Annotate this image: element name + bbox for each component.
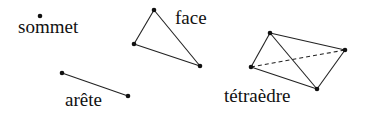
face-label: face	[175, 7, 207, 28]
vertex-label: sommet	[18, 16, 79, 37]
tetrahedron-vertex	[268, 31, 273, 36]
tetrahedron-label: tétraèdre	[224, 85, 290, 106]
tetrahedron-vertex	[315, 87, 320, 92]
face-example: face	[132, 7, 207, 68]
face-vertex	[198, 64, 203, 69]
face-vertex	[152, 8, 157, 13]
face-edge	[134, 44, 200, 66]
face-vertex	[132, 42, 137, 47]
tetrahedron-vertex	[343, 48, 348, 53]
tetrahedron-vertex	[249, 65, 254, 70]
edge-example: arête	[60, 71, 131, 110]
tetrahedron-hidden-edge	[251, 50, 345, 67]
diagram-svg: sommet face arête	[0, 0, 365, 115]
edge-endpoint	[126, 94, 131, 99]
tetrahedron-edge	[270, 33, 345, 50]
tetrahedron-example: tétraèdre	[224, 31, 347, 106]
edge-label: arête	[65, 89, 102, 110]
tetrahedron-edge	[251, 33, 270, 67]
polyhedron-elements-diagram: sommet face arête	[0, 0, 365, 115]
vertex-example: sommet	[18, 14, 79, 37]
edge-endpoint	[60, 71, 65, 76]
tetrahedron-edge	[317, 50, 345, 89]
face-edge	[134, 10, 154, 44]
